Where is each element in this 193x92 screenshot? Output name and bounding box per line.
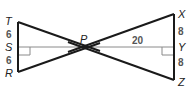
- label-p: P: [80, 33, 88, 45]
- measure-sr: 6: [6, 55, 12, 66]
- label-s: S: [5, 41, 13, 53]
- label-z: Z: [177, 76, 186, 88]
- triangle-diagram: T S R P X Y Z 6 6 20 8 8: [0, 0, 193, 92]
- measure-yz: 8: [178, 57, 184, 68]
- right-angle-mark-s: [18, 47, 30, 55]
- segment-zp-extended: [68, 42, 174, 80]
- right-angle-mark-y: [162, 47, 174, 55]
- label-x: X: [177, 8, 186, 20]
- measure-xy: 8: [178, 26, 184, 37]
- label-t: T: [5, 15, 13, 27]
- measure-ts: 6: [6, 29, 12, 40]
- measure-py: 20: [132, 35, 144, 46]
- label-y: Y: [178, 41, 186, 53]
- label-r: R: [5, 67, 13, 79]
